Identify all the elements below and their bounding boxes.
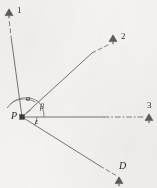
station-1-marker-icon — [5, 9, 13, 18]
station-d-label: D — [119, 161, 126, 171]
angle-beta-label: β — [40, 103, 44, 111]
ray-2-solid-segment — [22, 53, 92, 117]
station-d-marker-icon — [115, 177, 123, 186]
angle-arc-alpha — [10, 99, 35, 104]
station-2-marker-icon — [109, 35, 117, 44]
vertex-marker-p — [20, 115, 25, 120]
vertex-p-label: P — [11, 111, 17, 121]
angle-alpha-label: α — [26, 95, 30, 103]
station-1-label: 1 — [17, 6, 22, 15]
ray-to-station-1 — [9, 19, 22, 117]
diagram-vector-layer — [0, 0, 157, 188]
station-3-label: 3 — [147, 101, 152, 110]
ray-2-dashed-segment — [92, 44, 110, 53]
ray-1-dashed-segment — [9, 19, 12, 40]
ray-to-station-2 — [22, 44, 110, 117]
station-2-label: 2 — [121, 32, 126, 41]
ray-d-dashed-segment — [100, 166, 117, 176]
ray-d-solid-segment — [22, 117, 100, 166]
survey-angle-diagram: 1 2 3 D P α β ε — [0, 0, 157, 188]
station-3-marker-icon — [145, 114, 153, 123]
vertex-square-icon — [20, 115, 25, 120]
ray-1-solid-segment — [12, 40, 23, 117]
angle-epsilon-label: ε — [35, 118, 38, 126]
